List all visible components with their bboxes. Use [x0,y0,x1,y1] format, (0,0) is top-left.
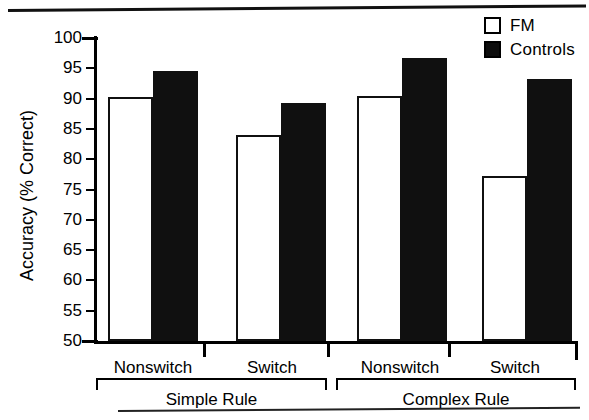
x-tick-1 [327,344,330,357]
y-tick-80 [86,158,97,160]
y-tick-label-55: 55 [40,302,82,319]
x-category-label-3: Switch [455,358,575,378]
y-tick-label-95: 95 [40,59,82,76]
y-tick-70 [86,219,97,221]
y-tick-label-70: 70 [40,211,82,228]
group-bracket-0 [96,378,327,390]
bar-controls-2 [402,58,447,341]
bar-fm-3 [482,176,527,341]
bar-fm-1 [236,135,281,341]
bar-controls-3 [527,79,572,341]
x-category-label-0: Nonswitch [93,358,213,378]
group-label-0: Simple Rule [122,390,302,410]
x-tick-3 [575,344,578,360]
y-tick-label-60: 60 [40,271,82,288]
y-tick-85 [86,128,97,130]
open-square-icon [484,17,501,34]
group-bracket-1 [336,378,576,390]
y-tick-label-50: 50 [40,332,82,349]
group-label-1: Complex Rule [366,390,546,410]
y-tick-label-85: 85 [40,120,82,137]
y-axis-title: Accuracy (% Correct) [17,61,38,331]
x-category-label-1: Switch [212,358,332,378]
y-tick-90 [86,98,97,100]
plot-area [97,38,576,341]
figure-container: FM Controls Accuracy (% Correct) 1009590… [0,0,589,420]
y-tick-95 [86,67,97,69]
y-tick-label-100: 100 [40,29,82,46]
x-tick-0 [203,344,206,357]
y-tick-50 [82,340,98,343]
bar-fm-0 [108,97,153,341]
x-tick-2 [448,344,451,357]
bar-controls-1 [281,103,326,341]
y-tick-75 [86,189,97,191]
y-tick-100 [82,37,98,40]
legend-item-fm: FM [484,14,575,36]
legend-label-fm: FM [510,17,535,34]
bar-fm-2 [357,96,402,341]
y-tick-label-65: 65 [40,241,82,258]
y-tick-label-75: 75 [40,181,82,198]
y-tick-label-80: 80 [40,150,82,167]
x-category-label-2: Nonswitch [340,358,460,378]
page-rule-top [8,4,586,12]
x-axis-line [94,341,578,344]
y-tick-label-90: 90 [40,90,82,107]
y-tick-65 [86,249,97,251]
bar-controls-0 [153,71,198,341]
y-tick-60 [86,279,97,281]
y-tick-55 [86,310,97,312]
